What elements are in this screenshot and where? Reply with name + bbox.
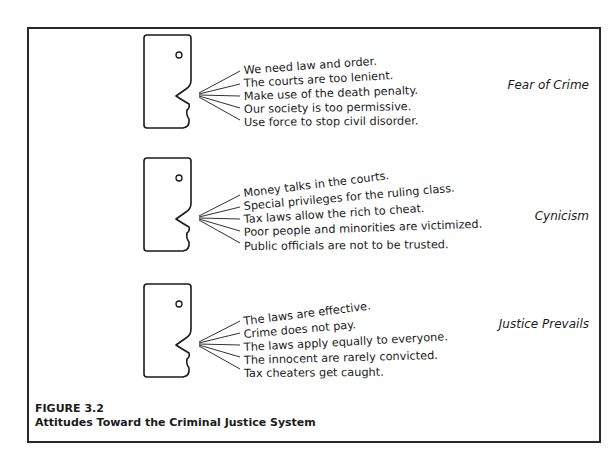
diagram-canvas: We need law and order. The courts are to… bbox=[0, 0, 613, 456]
speech-rays bbox=[199, 71, 240, 120]
figure-caption: FIGURE 3.2 Attitudes Toward the Criminal… bbox=[35, 402, 316, 430]
group-justice-prevails bbox=[144, 284, 240, 377]
figure-number: FIGURE 3.2 bbox=[35, 402, 316, 416]
figure-title: Attitudes Toward the Criminal Justice Sy… bbox=[35, 416, 316, 430]
head-profile-icon bbox=[144, 35, 191, 128]
head-profile-icon bbox=[144, 284, 191, 377]
speech-rays bbox=[199, 321, 240, 369]
statement: Tax cheaters get caught. bbox=[243, 366, 384, 380]
category-label-fear-of-crime: Fear of Crime bbox=[508, 78, 590, 92]
eye-icon bbox=[176, 175, 182, 181]
speech-rays bbox=[199, 195, 240, 243]
category-label-cynicism: Cynicism bbox=[535, 209, 589, 223]
head-profile-icon bbox=[144, 158, 191, 251]
eye-icon bbox=[176, 301, 182, 307]
eye-icon bbox=[176, 52, 182, 58]
category-label-justice-prevails: Justice Prevails bbox=[499, 317, 589, 331]
group-cynicism bbox=[144, 158, 240, 251]
group-fear-of-crime: We need law and order. The courts are to… bbox=[144, 35, 418, 129]
statement: Use force to stop civil disorder. bbox=[244, 114, 419, 129]
statement: Our society is too permissive. bbox=[244, 100, 412, 116]
statement: Public officials are not to be trusted. bbox=[244, 238, 449, 253]
